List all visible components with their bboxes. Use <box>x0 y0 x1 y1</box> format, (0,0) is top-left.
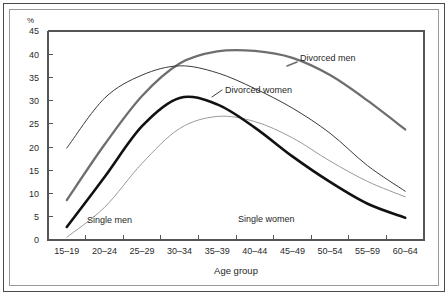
y-axis-ticks <box>48 54 53 217</box>
y-tick-label: 5 <box>34 212 39 222</box>
x-tick-label: 55–59 <box>355 246 380 256</box>
series-annotation-divorced-women: Divorced women <box>225 85 292 95</box>
x-axis-ticks <box>86 235 387 240</box>
x-tick-label: 15–19 <box>54 246 79 256</box>
divorced-women-leader <box>212 90 222 97</box>
data-series-group <box>67 50 405 237</box>
x-tick-label: 35–39 <box>205 246 230 256</box>
y-tick-label: 0 <box>34 235 39 245</box>
series-line-divorced-men <box>67 50 405 200</box>
y-tick-label: 15 <box>29 166 39 176</box>
y-tick-label: 20 <box>29 143 39 153</box>
series-annotation-divorced-men: Divorced men <box>300 53 356 63</box>
y-axis-unit-label: % <box>27 16 34 25</box>
divorced-men-leader <box>287 62 297 66</box>
y-tick-label: 10 <box>29 189 39 199</box>
x-tick-label: 20–24 <box>92 246 117 256</box>
y-tick-label: 45 <box>29 26 39 36</box>
y-tick-label: 30 <box>29 96 39 106</box>
plot-frame <box>48 31 424 240</box>
x-tick-label: 50–54 <box>317 246 342 256</box>
series-annotation-single-men: Single men <box>87 215 132 225</box>
x-tick-label: 40–44 <box>242 246 267 256</box>
series-line-single-women <box>67 97 405 227</box>
screenshot-root: 051015202530354045 15–1920–2425–2930–343… <box>0 0 448 295</box>
x-tick-label: 30–34 <box>167 246 192 256</box>
x-axis-title: Age group <box>214 265 258 276</box>
line-chart: 051015202530354045 15–1920–2425–2930–343… <box>0 0 448 295</box>
series-annotation-single-women: Single women <box>238 214 295 224</box>
x-tick-label: 60–64 <box>393 246 418 256</box>
x-tick-label: 25–29 <box>129 246 154 256</box>
x-tick-label: 45–49 <box>280 246 305 256</box>
chart-container: 051015202530354045 15–1920–2425–2930–343… <box>0 0 448 295</box>
y-axis-tick-labels: 051015202530354045 <box>29 26 39 245</box>
series-annotation-group: Divorced menDivorced womenSingle menSing… <box>87 53 356 225</box>
y-tick-label: 40 <box>29 50 39 60</box>
x-axis-tick-labels: 15–1920–2425–2930–3435–3940–4445–4950–54… <box>54 246 417 256</box>
y-tick-label: 35 <box>29 73 39 83</box>
y-tick-label: 25 <box>29 119 39 129</box>
